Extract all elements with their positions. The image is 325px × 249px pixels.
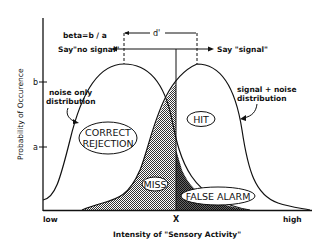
tick-b-label: b — [33, 78, 38, 87]
x-low-label: low — [43, 215, 58, 224]
false-alarm-label: FALSE ALARM — [186, 191, 251, 202]
correct-rejection-line1: CORRECT — [85, 127, 131, 138]
say-signal-arrowhead — [208, 47, 214, 52]
noise-label-line1: noise only — [49, 88, 92, 97]
say-signal-label: Say "signal" — [217, 45, 268, 54]
signal-label-line1: signal + noise — [237, 85, 297, 94]
x-axis-label: Intensity of "Sensory Activity" — [113, 230, 241, 239]
tick-a-label: a — [33, 143, 38, 152]
hit-label: HIT — [193, 114, 209, 125]
sdt-diagram: b a d' Say"no signal" Say "signal" beta=… — [0, 0, 325, 249]
miss-label: MISS — [143, 179, 166, 190]
signal-label-line2: distribution — [237, 94, 287, 103]
d-prime-arrow-left — [124, 31, 129, 35]
d-prime-label: d' — [153, 29, 160, 38]
say-no-signal-label: Say"no signal" — [58, 45, 120, 54]
correct-rejection-line2: REJECTION — [82, 138, 133, 149]
signal-pointer-arrowhead — [240, 115, 246, 121]
y-axis-label: Probability of Occurence — [16, 68, 25, 160]
beta-formula: beta=b / a — [63, 31, 107, 40]
noise-label-line2: distribution — [46, 97, 96, 106]
noise-pointer — [67, 108, 76, 122]
x-criterion-label: X — [173, 215, 180, 224]
x-high-label: high — [283, 215, 302, 224]
